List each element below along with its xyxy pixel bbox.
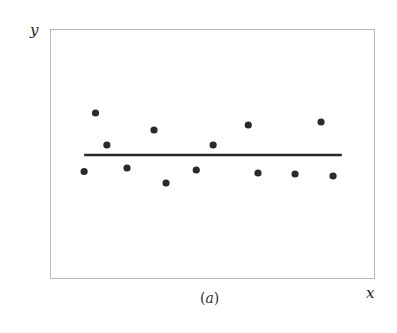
data-point — [123, 164, 130, 171]
data-point — [103, 141, 110, 148]
data-point — [81, 168, 88, 175]
scatter-figure: y x (a) ) — [0, 0, 397, 333]
data-point — [245, 121, 252, 128]
data-point — [317, 118, 324, 125]
data-point — [92, 109, 99, 116]
data-point — [291, 170, 298, 177]
data-point — [329, 172, 336, 179]
data-point — [162, 179, 169, 186]
data-point — [150, 126, 157, 133]
data-point — [193, 166, 200, 173]
data-point — [210, 141, 217, 148]
plot-area — [0, 0, 397, 333]
data-point — [254, 169, 261, 176]
